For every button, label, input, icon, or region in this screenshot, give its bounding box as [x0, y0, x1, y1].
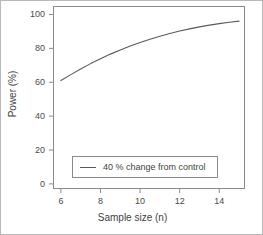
x-tick-label: 10 — [135, 197, 145, 206]
x-tick-label: 8 — [98, 197, 103, 206]
x-axis-ticks — [61, 189, 219, 193]
x-tick-label: 14 — [214, 197, 224, 206]
legend-entry-label: 40 % change from control — [103, 163, 206, 172]
x-tick-label: 12 — [175, 197, 185, 206]
y-axis-title: Power (%) — [8, 44, 18, 144]
legend-line-swatch-icon — [80, 167, 96, 168]
x-axis-title: Sample size (n) — [1, 213, 263, 223]
y-tick-label: 20 — [7, 146, 45, 155]
y-tick-label: 0 — [7, 179, 45, 188]
chart-legend: 40 % change from control — [72, 156, 218, 178]
x-tick-label: 6 — [58, 197, 63, 206]
y-tick-label: 100 — [7, 10, 45, 19]
y-axis-ticks — [49, 14, 53, 183]
power-curve-figure: 020406080100 68101214 Power (%) Sample s… — [0, 0, 263, 235]
power-curve-line — [61, 21, 239, 80]
